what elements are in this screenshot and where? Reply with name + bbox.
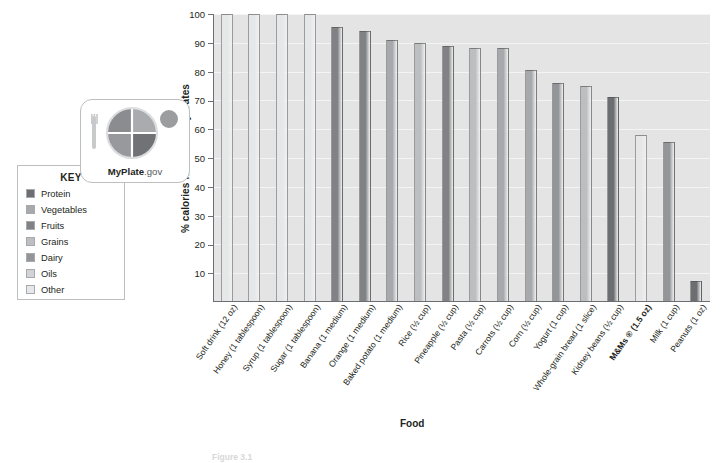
x-axis-tick-label: Sugar (1 tablespoon): [269, 303, 322, 374]
legend-swatch: [26, 253, 35, 262]
legend-item-label: Grains: [41, 237, 68, 247]
y-axis-tick-label: 50: [194, 153, 205, 164]
y-axis-tick-label: 90: [194, 38, 205, 49]
legend-swatch: [26, 237, 35, 246]
myplate-suffix: .gov: [144, 166, 162, 177]
x-axis-tick-label: Kidney beans (½ cup): [570, 303, 625, 376]
y-axis-tick-label: 10: [194, 268, 205, 279]
bar: [386, 40, 398, 301]
bar: [607, 97, 619, 301]
myplate-logo: MyPlate.gov: [80, 99, 190, 183]
legend-item-label: Fruits: [41, 221, 64, 231]
y-axis-tick: 60: [194, 120, 213, 138]
figure-number: Figure 3.1: [212, 452, 252, 462]
legend-item-label: Other: [41, 285, 64, 295]
bar: [331, 27, 343, 301]
y-axis-tick-label: 40: [194, 182, 205, 193]
x-axis-tick-label: Honey (1 tablespoon): [212, 303, 266, 375]
legend-swatch: [26, 189, 35, 198]
legend-item: Protein: [26, 186, 124, 201]
legend-swatch: [26, 285, 35, 294]
myplate-brand: MyPlate: [108, 166, 144, 177]
legend-item: Dairy: [26, 250, 124, 265]
bar: [304, 14, 316, 301]
legend-item: Vegetables: [26, 202, 124, 217]
bar: [580, 86, 592, 301]
myplate-wordmark: MyPlate.gov: [81, 166, 189, 177]
bar: [497, 48, 509, 301]
y-axis-tick-label: 30: [194, 211, 205, 222]
figure-caption: Figure 3.1: [212, 452, 252, 462]
y-axis-tick-label: 60: [194, 124, 205, 135]
bar: [635, 135, 647, 301]
bar: [442, 46, 454, 301]
chart-legend: KEY ProteinVegetablesFruitsGrainsDairyOi…: [17, 165, 125, 300]
legend-items: ProteinVegetablesFruitsGrainsDairyOilsOt…: [18, 186, 124, 297]
legend-item: Fruits: [26, 218, 124, 233]
legend-swatch: [26, 269, 35, 278]
y-axis-tick: 50: [194, 149, 213, 167]
bar: [525, 70, 537, 301]
bar: [552, 83, 564, 301]
y-axis-tick: 30: [194, 207, 213, 225]
y-axis-tick: 90: [194, 34, 213, 52]
myplate-plate-icon: [81, 100, 189, 164]
y-axis-tick: 80: [194, 63, 213, 81]
bar: [414, 43, 426, 301]
bar: [469, 48, 481, 301]
legend-swatch: [26, 221, 35, 230]
legend-item-label: Vegetables: [41, 205, 87, 215]
y-axis-tick-label: 70: [194, 96, 205, 107]
bar: [248, 14, 260, 301]
bar: [276, 14, 288, 301]
y-axis-tick-label: 20: [194, 240, 205, 251]
y-axis-tick: 100: [189, 5, 213, 23]
bar: [359, 31, 371, 301]
bar: [663, 142, 675, 301]
y-axis-tick-label: 80: [194, 67, 205, 78]
chart-plot-area: 102030405060708090100: [213, 14, 710, 302]
bar: [690, 281, 702, 301]
x-axis-tick-labels: Soft drink (12 oz)Honey (1 tablespoon)Sy…: [213, 303, 710, 411]
y-axis-tick-label: 100: [189, 9, 205, 20]
legend-item-label: Dairy: [41, 253, 63, 263]
x-axis-title: Food: [400, 418, 424, 429]
legend-item: Grains: [26, 234, 124, 249]
y-axis-tick: 40: [194, 178, 213, 196]
y-axis-tick: 10: [194, 264, 213, 282]
legend-item-label: Oils: [41, 269, 57, 279]
legend-item: Other: [26, 282, 124, 297]
legend-item-label: Protein: [41, 189, 70, 199]
x-axis-line: [213, 301, 710, 302]
y-axis-tick: 20: [194, 235, 213, 253]
legend-swatch: [26, 205, 35, 214]
bar: [221, 14, 233, 301]
y-axis-tick: 70: [194, 91, 213, 109]
legend-item: Oils: [26, 266, 124, 281]
y-axis-line: [213, 14, 214, 302]
